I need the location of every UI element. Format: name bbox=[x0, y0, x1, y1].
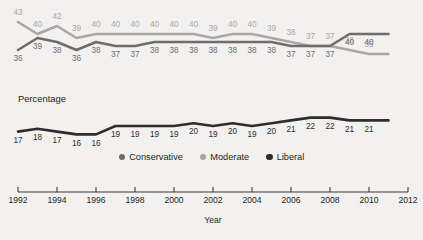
data-label: 21 bbox=[364, 125, 374, 134]
data-label: 36 bbox=[13, 54, 23, 63]
legend-item-conservative[interactable]: Conservative bbox=[119, 152, 183, 162]
chart-legend: ConservativeModerateLiberal bbox=[0, 152, 423, 162]
data-label: 19 bbox=[208, 130, 218, 139]
data-label: 19 bbox=[111, 130, 121, 139]
data-label: 39 bbox=[208, 24, 218, 33]
data-label: 40 bbox=[150, 20, 160, 29]
data-label: 19 bbox=[169, 130, 179, 139]
y-axis-title: Percentage bbox=[18, 93, 66, 104]
data-label: 37 bbox=[306, 32, 316, 41]
x-axis-tick-label: 2006 bbox=[281, 195, 300, 205]
data-label: 40 bbox=[189, 20, 199, 29]
x-axis-tick-label: 2008 bbox=[320, 195, 339, 205]
x-axis-tick-label: 2000 bbox=[164, 195, 183, 205]
x-axis-tick-label: 2004 bbox=[242, 195, 261, 205]
data-label: 19 bbox=[130, 130, 140, 139]
data-label: 38 bbox=[267, 46, 277, 55]
data-label: 39 bbox=[33, 42, 43, 51]
x-axis-tick-label: 1992 bbox=[8, 195, 27, 205]
legend-label: Moderate bbox=[210, 152, 249, 162]
x-axis-tick-label: 2010 bbox=[359, 195, 378, 205]
x-axis-tick-label: 2012 bbox=[398, 195, 417, 205]
data-label: 40 bbox=[364, 38, 374, 47]
x-axis-title: Year bbox=[204, 215, 222, 225]
data-label: 39 bbox=[72, 24, 82, 33]
data-label: 43 bbox=[13, 8, 23, 17]
data-label: 17 bbox=[13, 136, 23, 145]
legend-label: Liberal bbox=[277, 152, 305, 162]
data-label: 16 bbox=[91, 139, 101, 148]
data-label: 37 bbox=[325, 50, 335, 59]
data-label: 38 bbox=[208, 46, 218, 55]
data-label: 37 bbox=[111, 50, 121, 59]
chart-svg: 4340423940404040404039404039383737363536… bbox=[0, 0, 423, 240]
upper-panel: 4340423940404040404039404039383737363536… bbox=[13, 8, 388, 63]
data-label: 38 bbox=[52, 46, 62, 55]
legend-item-moderate[interactable]: Moderate bbox=[200, 152, 249, 162]
data-label: 37 bbox=[325, 32, 335, 41]
legend-dot-icon bbox=[266, 154, 273, 161]
lower-panel: 17181716161919191920192019202122222121 bbox=[13, 118, 388, 148]
data-label: 37 bbox=[306, 50, 316, 59]
data-label: 40 bbox=[345, 38, 355, 47]
data-label: 21 bbox=[286, 125, 296, 134]
data-label: 38 bbox=[91, 46, 101, 55]
data-label: 22 bbox=[306, 122, 316, 131]
data-label: 20 bbox=[189, 127, 199, 136]
data-label: 36 bbox=[72, 54, 82, 63]
data-label: 19 bbox=[150, 130, 160, 139]
data-label: 38 bbox=[189, 46, 199, 55]
x-axis-tick-label: 1996 bbox=[86, 195, 105, 205]
data-label: 40 bbox=[33, 20, 43, 29]
x-axis-tick-label: 2002 bbox=[203, 195, 222, 205]
data-label: 37 bbox=[130, 50, 140, 59]
data-label: 38 bbox=[228, 46, 238, 55]
x-axis: 1992199419961998200020022004200620082010… bbox=[8, 187, 417, 205]
legend-dot-icon bbox=[119, 154, 126, 161]
data-label: 40 bbox=[247, 20, 257, 29]
data-label: 40 bbox=[169, 20, 179, 29]
data-label: 39 bbox=[267, 24, 277, 33]
legend-item-liberal[interactable]: Liberal bbox=[266, 152, 304, 162]
data-label: 37 bbox=[286, 50, 296, 59]
data-label: 40 bbox=[130, 20, 140, 29]
data-label: 38 bbox=[247, 46, 257, 55]
data-label: 40 bbox=[111, 20, 121, 29]
legend-dot-icon bbox=[200, 154, 207, 161]
data-label: 40 bbox=[228, 20, 238, 29]
legend-label: Conservative bbox=[129, 152, 183, 162]
x-axis-tick-label: 1994 bbox=[47, 195, 66, 205]
data-label: 38 bbox=[169, 46, 179, 55]
data-label: 38 bbox=[150, 46, 160, 55]
data-label: 42 bbox=[52, 12, 62, 21]
data-label: 17 bbox=[52, 136, 62, 145]
data-label: 40 bbox=[91, 20, 101, 29]
data-label: 20 bbox=[267, 127, 277, 136]
chart-container: 4340423940404040404039404039383737363536… bbox=[0, 0, 423, 240]
data-label: 19 bbox=[247, 130, 257, 139]
x-axis-tick-label: 1998 bbox=[125, 195, 144, 205]
data-label: 16 bbox=[72, 139, 82, 148]
data-label: 38 bbox=[286, 28, 296, 37]
data-label: 20 bbox=[228, 127, 238, 136]
data-label: 21 bbox=[345, 125, 355, 134]
data-label: 18 bbox=[33, 133, 43, 142]
data-label: 22 bbox=[325, 122, 335, 131]
